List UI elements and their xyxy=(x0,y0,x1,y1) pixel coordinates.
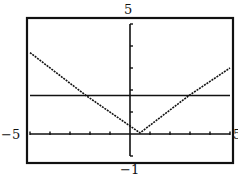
x-max-label: 5 xyxy=(233,128,238,141)
y-max-label: 5 xyxy=(124,3,132,16)
calculator-graph xyxy=(0,0,238,177)
x-min-label: −5 xyxy=(1,128,20,141)
axes xyxy=(30,24,230,156)
y-min-label: −1 xyxy=(120,163,139,176)
